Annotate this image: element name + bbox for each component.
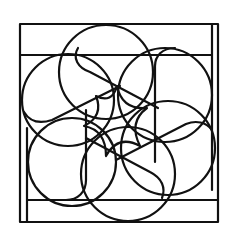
petal-top — [59, 25, 158, 119]
petal-top-circle — [59, 25, 153, 119]
pinwheel-svg — [0, 0, 235, 242]
pinwheel-figure — [0, 0, 235, 242]
petal-bottom-right — [116, 101, 215, 195]
petal-bottom-left — [28, 110, 116, 206]
